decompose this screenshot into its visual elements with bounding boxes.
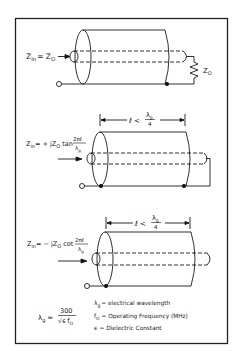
dimension-fraction-num: λg (152, 214, 159, 223)
dimension-fraction-den: 4 (154, 224, 158, 230)
figure-border (16, 19, 228, 344)
formula-fraction-den: λg (75, 145, 81, 153)
formula-fraction-den: λg (78, 246, 84, 254)
definition-wavelength: λg= electrical wavelength (94, 300, 170, 308)
panel-matched-line (57, 30, 199, 87)
wavelength-equation-lhs: λg= (38, 314, 53, 324)
wavelength-equation-num: 300 (60, 307, 72, 315)
formula-shorted: Zin= + jZOtan (26, 140, 73, 149)
arrow-icon (81, 259, 87, 263)
arrow-icon (65, 55, 70, 59)
formula-fraction-num: 2πℓ (73, 136, 82, 142)
terminal-icon (85, 284, 90, 289)
terminal-icon (57, 82, 62, 87)
dimension-fraction-den: 4 (148, 121, 152, 127)
dimension-fraction-num: λg (146, 111, 153, 120)
transmission-line-diagram: Zin= ZO ZO ℓ < λg 4 Zin= + (0, 0, 234, 351)
definition-frequency: fO= Operating Frequency (MHz) (94, 313, 188, 321)
load-label: ZO (203, 67, 212, 76)
cylinder-front-ellipse (75, 30, 91, 84)
definition-dielectric: ϵ= Dielectric Constant (94, 325, 162, 331)
formula-fraction-num: 2πℓ (75, 237, 84, 243)
short-circuit-wire (101, 159, 210, 187)
wavelength-equation-den: √ϵfO (58, 317, 73, 326)
legend: λg= 300 √ϵfO λg= electrical wavelength f… (38, 300, 188, 331)
dimension-label-shorted: ℓ < (128, 117, 140, 125)
terminal-icon (80, 184, 85, 189)
formula-matched: Zin= ZO (26, 52, 56, 62)
open-end (207, 253, 210, 265)
resistor-icon (186, 57, 198, 85)
dimension-label-open: ℓ < (134, 220, 146, 228)
arrow-icon (76, 157, 82, 161)
formula-open: Zin= − jZOcot (27, 240, 74, 249)
